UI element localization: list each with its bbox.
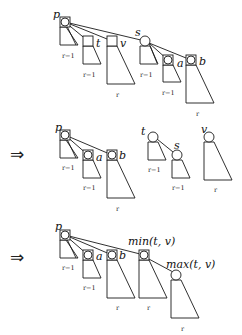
node-circle-t <box>148 132 158 142</box>
diagram-canvas: p r−1 t r−1 v r s r−1 a r−1 b r ⇒ <box>0 0 242 335</box>
subtree-v <box>204 142 232 180</box>
rank-a: r−1 <box>83 184 96 192</box>
node-circle-max <box>171 270 181 280</box>
label-s: s <box>174 139 180 152</box>
rank-s: r−1 <box>172 184 185 192</box>
node-circle-p <box>61 18 69 26</box>
label-a: a <box>96 151 103 164</box>
node-box-v <box>107 36 117 46</box>
stage-3: ⇒ p r−1 a r−1 b r min(t, v) r max(t, v <box>10 220 215 333</box>
subtree-b <box>107 160 135 198</box>
label-t: t <box>141 125 146 138</box>
rank-p: r−1 <box>62 164 75 172</box>
node-circle-min <box>140 251 148 259</box>
rank-b: r <box>116 304 120 312</box>
subtree-t <box>148 142 166 160</box>
rank-max: r <box>181 325 185 333</box>
rank-p: r−1 <box>62 264 75 272</box>
label-p: p <box>53 8 60 21</box>
subtree-max <box>171 280 199 318</box>
subtree-min <box>139 260 167 298</box>
rank-p: r−1 <box>62 52 75 60</box>
label-p: p <box>55 220 62 233</box>
node-circle-s <box>140 36 150 46</box>
label-max: max(t, v) <box>166 258 215 271</box>
node-circle-b <box>108 151 116 159</box>
label-v: v <box>120 37 127 50</box>
subtree-s <box>172 160 190 178</box>
label-a: a <box>96 250 103 263</box>
node-circle-b <box>187 56 195 64</box>
label-v: v <box>201 123 208 136</box>
node-circle-a <box>84 151 92 159</box>
label-b: b <box>119 249 126 262</box>
rank-t: r−1 <box>83 71 96 79</box>
rank-b: r <box>196 110 200 118</box>
label-p: p <box>55 121 62 134</box>
rank-t: r−1 <box>148 166 161 174</box>
rank-s: r−1 <box>140 71 153 79</box>
rank-a: r−1 <box>162 89 175 97</box>
label-min: min(t, v) <box>128 235 175 248</box>
rank-v: r <box>214 186 218 194</box>
label-b: b <box>199 55 206 68</box>
rank-v: r <box>116 91 120 99</box>
stage-1: p r−1 t r−1 v r s r−1 a r−1 b r <box>53 8 214 118</box>
node-circle-a <box>84 251 92 259</box>
node-circle-p <box>61 231 69 239</box>
node-box-t <box>83 36 93 46</box>
subtree-b <box>186 65 214 103</box>
node-circle-a <box>164 56 172 64</box>
label-t: t <box>96 37 101 50</box>
label-s: s <box>135 26 141 39</box>
node-circle-p <box>61 131 69 139</box>
rank-a: r−1 <box>83 284 96 292</box>
label-b: b <box>119 149 126 162</box>
label-a: a <box>177 57 184 70</box>
rank-min: r <box>147 304 151 312</box>
subtree-b <box>107 260 135 298</box>
stage-2: ⇒ p r−1 a r−1 b r t r−1 s r−1 <box>10 121 232 213</box>
node-circle-b <box>108 251 116 259</box>
rank-b: r <box>116 205 120 213</box>
transition-arrow-2: ⇒ <box>10 247 24 267</box>
subtree-v <box>107 46 135 84</box>
transition-arrow-1: ⇒ <box>10 144 24 164</box>
